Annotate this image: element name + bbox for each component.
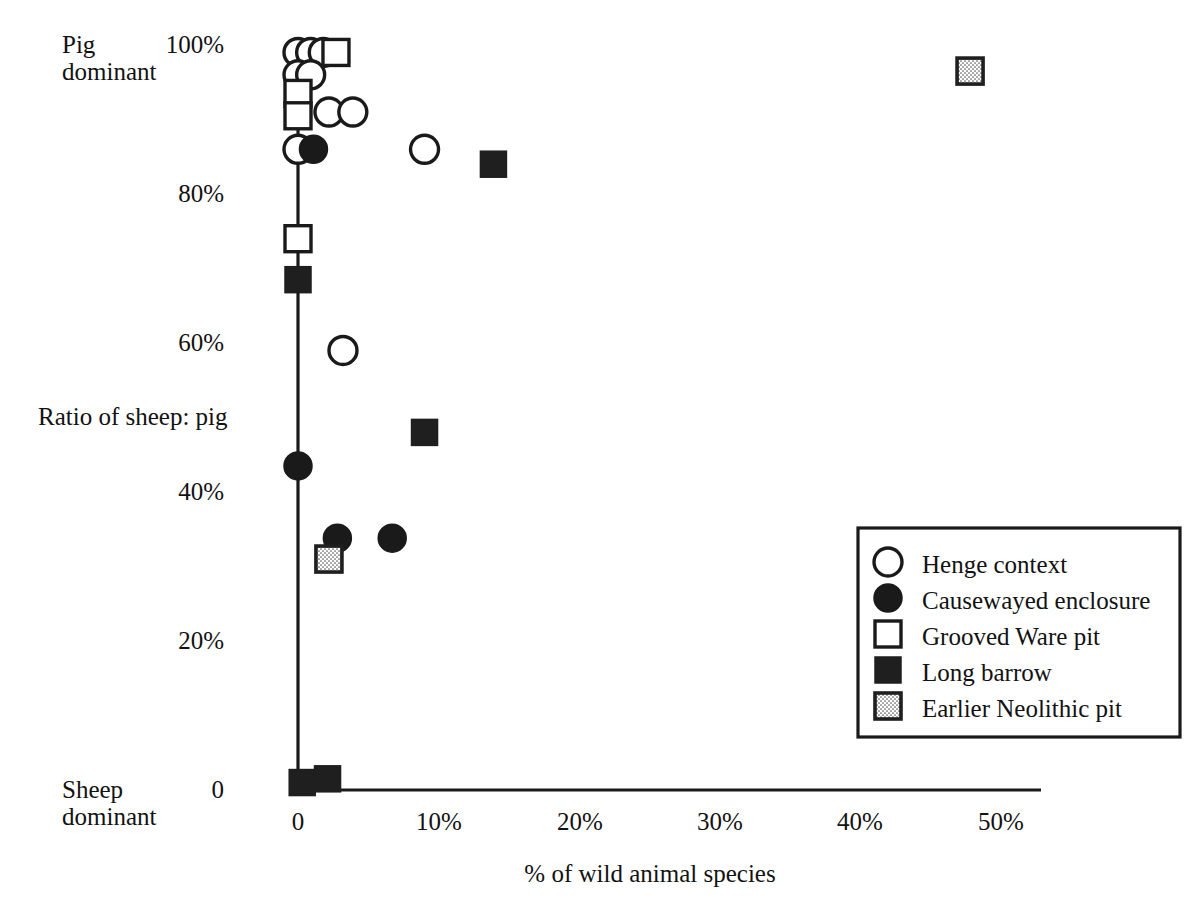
sheep-dominant-note: Sheepdominant — [62, 776, 156, 830]
data-point — [316, 546, 342, 572]
data-point — [957, 58, 983, 84]
y-tick-label: 60% — [104, 329, 224, 357]
y-tick-label: 20% — [104, 627, 224, 655]
data-point — [323, 39, 349, 65]
data-point — [289, 770, 315, 796]
data-point — [339, 98, 367, 126]
data-point — [412, 419, 438, 445]
legend-marker-stippled-square — [875, 693, 901, 719]
data-point — [315, 766, 341, 792]
scatter-chart: 100% 80% 60% 40% 20% 0 0 10% 20% 30% 40%… — [0, 0, 1191, 910]
legend-item-label-long-barrow[interactable]: Long barrow — [922, 659, 1052, 687]
x-tick-label: 30% — [675, 808, 765, 836]
x-tick-label: 10% — [394, 808, 484, 836]
series-earlier-neolithic-pit — [316, 58, 983, 572]
legend-marker-open-square — [875, 621, 901, 647]
x-axis-title: % of wild animal species — [450, 860, 850, 888]
data-point — [284, 452, 312, 480]
y-tick-label: 40% — [104, 478, 224, 506]
data-point — [480, 151, 506, 177]
legend-item-label-earlier-neolithic-pit[interactable]: Earlier Neolithic pit — [922, 695, 1122, 723]
x-tick-label: 50% — [956, 808, 1046, 836]
data-point — [378, 524, 406, 552]
legend-marker-filled-square — [875, 657, 901, 683]
legend-item-label-causewayed-enclosure[interactable]: Causewayed enclosure — [922, 587, 1150, 615]
x-tick-label: 0 — [253, 808, 343, 836]
x-tick-label: 40% — [815, 808, 905, 836]
legend-marker-open-circle — [874, 548, 902, 576]
sheep-dominant-line-2: dominant — [62, 803, 156, 830]
y-axis-title: Ratio of sheep: pig — [38, 403, 228, 431]
data-point — [285, 103, 311, 129]
series-long-barrow — [285, 151, 506, 795]
pig-dominant-line-1: Pig — [62, 31, 95, 58]
pig-dominant-note: Pigdominant — [62, 31, 156, 85]
data-point — [285, 267, 311, 293]
data-point — [299, 135, 327, 163]
legend-marker-filled-circle — [874, 584, 902, 612]
pig-dominant-line-2: dominant — [62, 58, 156, 85]
sheep-dominant-line-1: Sheep — [62, 776, 123, 803]
y-tick-label: 80% — [104, 180, 224, 208]
data-point — [329, 336, 357, 364]
x-tick-label: 20% — [535, 808, 625, 836]
data-point — [411, 135, 439, 163]
legend-item-label-henge-context[interactable]: Henge context — [922, 551, 1067, 579]
data-point — [285, 226, 311, 252]
legend-item-label-grooved-ware-pit[interactable]: Grooved Ware pit — [922, 623, 1100, 651]
plot-canvas — [0, 0, 1191, 910]
